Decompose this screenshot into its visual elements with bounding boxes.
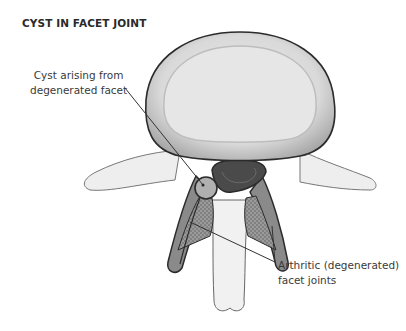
cyst-label-line-1: Cyst arising from <box>30 68 127 83</box>
cyst-label-line-2: degenerated facet <box>30 83 127 98</box>
cyst <box>195 177 217 199</box>
vertebral-body-inner <box>164 46 316 142</box>
facet-label-line-1: Arthritic (degenerated) <box>278 258 399 273</box>
right-transverse-process <box>300 150 376 190</box>
cyst-label: Cyst arising from degenerated facet <box>30 68 127 98</box>
facet-label-line-2: facet joints <box>278 273 399 288</box>
left-transverse-process <box>84 150 180 190</box>
facet-label: Arthritic (degenerated) facet joints <box>278 258 399 288</box>
